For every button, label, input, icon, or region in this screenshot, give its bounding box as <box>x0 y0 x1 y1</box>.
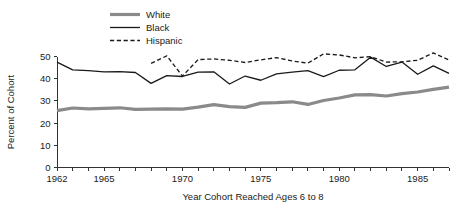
y-tick-label: 30 <box>40 95 51 106</box>
x-axis-title: Year Cohort Reached Ages 6 to 8 <box>182 191 323 202</box>
y-tick-label: 0 <box>45 162 50 173</box>
legend-label-white: White <box>146 9 170 20</box>
x-tick-label: 1985 <box>407 173 428 184</box>
y-tick-label: 40 <box>40 73 51 84</box>
legend-label-black: Black <box>146 22 169 33</box>
x-tick-label: 1965 <box>93 173 114 184</box>
chart-axes: 01020304050196219651970197519801985 <box>40 51 449 184</box>
x-tick-label: 1975 <box>250 173 271 184</box>
legend-item-hispanic: Hispanic <box>110 35 183 46</box>
y-axis-ticks: 01020304050 <box>40 51 57 173</box>
x-tick-label: 1980 <box>329 173 350 184</box>
y-axis-title: Percent of Cohort <box>5 74 16 149</box>
x-tick-label: 1962 <box>46 173 67 184</box>
y-tick-label: 50 <box>40 51 51 62</box>
x-tick-label: 1970 <box>172 173 193 184</box>
y-tick-label: 10 <box>40 140 51 151</box>
line-chart: WhiteBlackHispanic0102030405019621965197… <box>0 0 461 213</box>
series-line-black <box>57 57 449 84</box>
legend-item-black: Black <box>110 22 169 33</box>
chart-figure: WhiteBlackHispanic0102030405019621965197… <box>0 0 461 213</box>
chart-series-group <box>57 53 449 111</box>
legend-label-hispanic: Hispanic <box>146 35 183 46</box>
series-line-white <box>57 87 449 111</box>
x-axis-ticks: 196219651970197519801985 <box>46 168 449 184</box>
legend-item-white: White <box>110 9 170 20</box>
y-tick-label: 20 <box>40 118 51 129</box>
chart-legend: WhiteBlackHispanic <box>110 9 183 46</box>
